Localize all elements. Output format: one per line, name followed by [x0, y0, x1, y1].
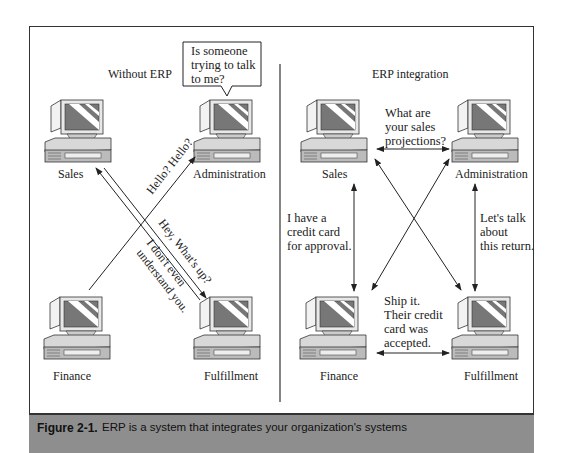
node-administration: Administration	[455, 167, 528, 181]
left-title: Without ERP	[108, 67, 172, 81]
svg-text:I have a: I have a	[287, 211, 327, 225]
computer-sales-icon	[45, 100, 111, 162]
svg-text:to me?: to me?	[191, 72, 225, 86]
node-finance: Finance	[53, 369, 91, 383]
computer-admin-icon	[194, 100, 260, 162]
computer-sales-icon	[301, 100, 367, 162]
computer-fulfillment-icon	[452, 297, 518, 359]
svg-text:trying to talk: trying to talk	[191, 58, 256, 72]
svg-text:about: about	[480, 225, 508, 239]
svg-text:card was: card was	[384, 322, 428, 336]
computer-admin-icon	[452, 100, 518, 162]
msg-return: Let's talk about this return.	[480, 211, 534, 253]
computer-finance-icon	[44, 297, 110, 359]
svg-text:projections?: projections?	[385, 134, 447, 148]
node-fulfillment: Fulfillment	[464, 369, 519, 383]
right-title: ERP integration	[372, 67, 449, 81]
svg-text:accepted.: accepted.	[384, 336, 431, 350]
erp-diagram: Without ERP Is someone trying to talk to…	[0, 0, 575, 453]
speech-bubble: Is someone trying to talk to me?	[183, 42, 261, 96]
computer-fulfillment-icon	[194, 297, 260, 359]
caption-text: ERP is a system that integrates your org…	[102, 421, 407, 433]
svg-text:Let's talk: Let's talk	[480, 211, 526, 225]
svg-text:credit card: credit card	[287, 225, 341, 239]
svg-text:for approval.: for approval.	[287, 239, 352, 253]
node-administration: Administration	[193, 167, 266, 181]
node-sales: Sales	[58, 167, 84, 181]
node-sales: Sales	[322, 167, 348, 181]
node-fulfillment: Fulfillment	[204, 369, 259, 383]
svg-text:your sales: your sales	[385, 120, 435, 134]
msg-credit-card: I have a credit card for approval.	[287, 211, 352, 253]
svg-text:this return.: this return.	[480, 239, 534, 253]
msg-sales-projections: What are your sales projections?	[385, 106, 447, 148]
computer-finance-icon	[300, 297, 366, 359]
svg-text:Is someone: Is someone	[191, 44, 248, 58]
svg-text:What are: What are	[385, 106, 431, 120]
figure-label: Figure 2-1.	[37, 421, 98, 435]
msg-ship-it: Ship it. Their credit card was accepted.	[384, 294, 443, 350]
svg-text:Ship it.: Ship it.	[384, 294, 420, 308]
node-finance: Finance	[320, 369, 358, 383]
figure-caption: Figure 2-1. ERP is a system that integra…	[29, 413, 534, 453]
svg-text:Their credit: Their credit	[384, 308, 443, 322]
